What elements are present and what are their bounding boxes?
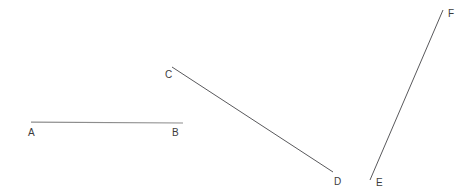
- point-label-a: A: [28, 128, 35, 138]
- point-label-e: E: [376, 178, 383, 188]
- figure-drawing-area: [0, 0, 471, 195]
- segment-cd-line: [172, 67, 333, 172]
- point-label-d: D: [334, 177, 341, 187]
- point-label-c: C: [165, 70, 172, 80]
- segment-ab-line: [31, 122, 183, 123]
- point-label-b: B: [172, 128, 179, 138]
- line-segments-figure: A B C D E F: [0, 0, 471, 195]
- point-label-f: F: [448, 9, 454, 19]
- segment-ef-line: [370, 10, 443, 180]
